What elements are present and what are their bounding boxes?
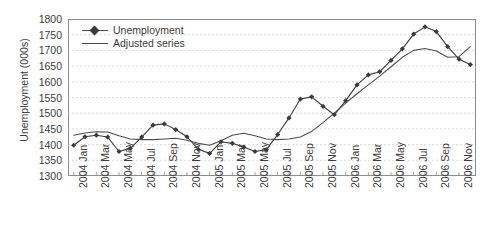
legend-item-adjusted-series: Adjusted series	[82, 37, 185, 49]
x-axis-tick-label: 2004 Mar	[100, 144, 110, 188]
data-point-marker	[173, 127, 178, 132]
y-axis-tick-label: 1800	[32, 14, 62, 24]
legend-label-adjusted-series: Adjusted series	[113, 37, 185, 49]
x-axis-tick-label: 2006 Mar	[372, 144, 382, 188]
y-axis-tick-label: 1350	[32, 155, 62, 165]
x-axis-tick-label: 2005 Jan	[214, 145, 224, 188]
x-axis-tick-label: 2004 Sep	[168, 143, 178, 188]
legend-key-plain-line	[82, 37, 108, 49]
x-axis-tick-label: 2005 May	[259, 142, 269, 188]
data-point-marker	[298, 96, 303, 101]
x-axis-tick-label: 2005 Jul	[282, 148, 292, 188]
y-axis-tick-label: 1500	[32, 108, 62, 118]
x-axis-tick-label: 2004 Nov	[191, 143, 201, 188]
x-axis-tick-label: 2004 May	[123, 142, 133, 188]
data-point-marker	[252, 149, 257, 154]
y-axis-tick-label: 1600	[32, 77, 62, 87]
x-axis-tick-label: 2005 Mar	[236, 144, 246, 188]
data-point-marker	[94, 133, 99, 138]
x-axis-tick-labels: 2004 Jan2004 Mar2004 May2004 Jul2004 Sep…	[68, 176, 476, 241]
legend-label-unemployment: Unemployment	[113, 24, 184, 36]
y-axis-tick-label: 1300	[32, 171, 62, 181]
y-axis-tick-label: 1750	[32, 30, 62, 40]
x-axis-tick-label: 2006 Nov	[463, 143, 473, 188]
data-point-marker	[422, 24, 427, 29]
x-axis-tick-label: 2006 Jul	[418, 148, 428, 188]
x-axis-tick-label: 2005 Nov	[327, 143, 337, 188]
x-axis-tick-label: 2004 Jan	[78, 145, 88, 188]
y-axis-tick-label: 1700	[32, 45, 62, 55]
legend-key-line-with-diamond-marker	[82, 24, 108, 36]
x-axis-tick-label: 2004 Jul	[146, 148, 156, 188]
unemployment-line-chart: Unemployment (000s) 18001750170016501600…	[0, 0, 487, 241]
y-axis-tick-label: 1650	[32, 61, 62, 71]
x-axis-tick-label: 2006 May	[395, 142, 405, 188]
y-axis-tick-label: 1400	[32, 140, 62, 150]
legend-item-unemployment: Unemployment	[82, 24, 185, 36]
y-axis-tick-label: 1550	[32, 93, 62, 103]
data-point-marker	[162, 121, 167, 126]
y-axis-tick-label: 1450	[32, 124, 62, 134]
series-line-adjusted-series	[74, 47, 471, 146]
x-axis-tick-label: 2006 Jan	[350, 145, 360, 188]
x-axis-tick-label: 2006 Sep	[440, 143, 450, 188]
chart-legend: Unemployment Adjusted series	[82, 24, 185, 50]
y-axis-tick-labels: 1800175017001650160015501500145014001350…	[28, 0, 62, 241]
x-axis-tick-label: 2005 Sep	[304, 143, 314, 188]
